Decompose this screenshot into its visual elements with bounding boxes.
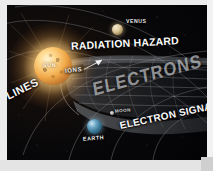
moon-body [110,111,114,115]
earth-body [87,119,102,134]
frame-edge-bottom [0,160,207,171]
space-diagram-scene: VENUS SUN EARTH MOON RADIATION HAZARD IO… [7,5,207,160]
sun-label: SUN [43,63,56,69]
frame-corner-shadow [201,157,213,171]
image-frame: VENUS SUN EARTH MOON RADIATION HAZARD IO… [0,0,213,171]
frame-edge-right [207,0,213,171]
venus-label: VENUS [126,19,146,24]
frame-edge-top [0,0,206,5]
venus-body [112,24,123,35]
frame-edge-left [0,0,7,160]
